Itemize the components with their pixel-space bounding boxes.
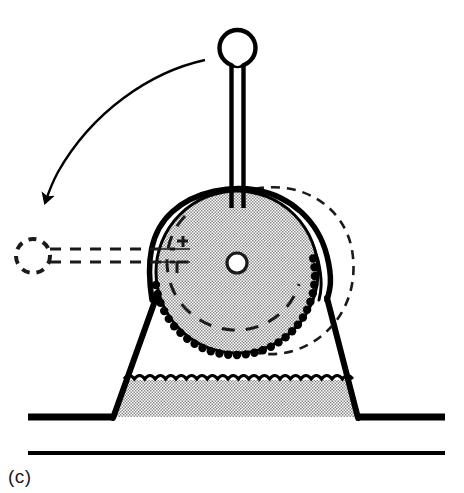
ground-lines bbox=[28, 417, 445, 453]
figure-label: (c) bbox=[8, 466, 32, 488]
handle-assembly bbox=[220, 30, 256, 208]
base-stippled-fill bbox=[100, 380, 370, 425]
figure-root: (c) bbox=[0, 0, 464, 493]
handle-knob bbox=[220, 30, 256, 66]
wheel-hub bbox=[227, 253, 247, 273]
ghost-handle-knob bbox=[16, 239, 50, 273]
rotation-arrow-path bbox=[45, 60, 205, 203]
rotation-arrow bbox=[45, 60, 205, 203]
mechanical-schematic-drawing bbox=[0, 0, 464, 493]
